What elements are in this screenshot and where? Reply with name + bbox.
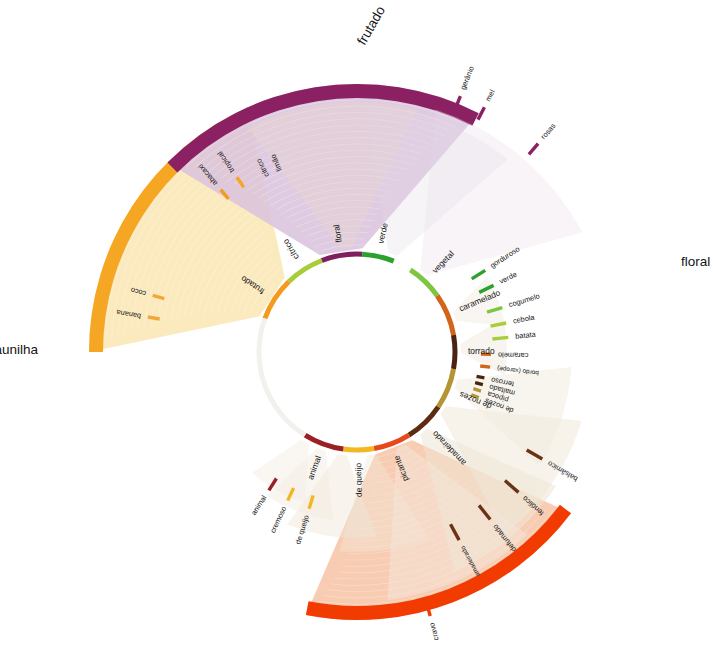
descriptor-tick-gorduroso[interactable] bbox=[472, 270, 485, 279]
ring-segment-caramelado[interactable] bbox=[435, 294, 456, 335]
ring-segment-torrado[interactable] bbox=[451, 335, 457, 370]
ring-segment-empty bbox=[257, 318, 307, 438]
descriptor-tick-rosas[interactable] bbox=[529, 144, 538, 155]
descriptor-label-cebola: cebola bbox=[512, 312, 536, 325]
inner-ring-layer bbox=[257, 251, 458, 452]
descriptor-tick-maltado[interactable] bbox=[475, 383, 483, 385]
petal-label-floral: floral bbox=[681, 254, 710, 269]
petal-label-frutado: frutado bbox=[354, 4, 388, 48]
descriptor-label-mel: mel bbox=[483, 88, 497, 103]
descriptor-label-verde: verde bbox=[498, 270, 519, 286]
descriptor-tick-pipoca[interactable] bbox=[473, 389, 481, 391]
petal-label-baunilha: baunilha bbox=[0, 342, 38, 357]
descriptor-label-animal: animal bbox=[249, 493, 268, 516]
ring-segment-de nozes[interactable] bbox=[436, 369, 456, 409]
ring-segment-animal[interactable] bbox=[304, 433, 344, 452]
descriptor-label-gerânio: gerânio bbox=[458, 65, 476, 91]
aroma-wheel-svg: frutadofloralbaunilhafrutadocítricoflora… bbox=[0, 0, 713, 655]
ring-segment-de queijo[interactable] bbox=[343, 446, 374, 452]
descriptor-label-caramelo: caramelo bbox=[498, 351, 529, 361]
descriptor-label-cremoso: cremoso bbox=[268, 505, 288, 534]
descriptor-tick-batata[interactable] bbox=[492, 337, 508, 339]
ring-segment-verde[interactable] bbox=[362, 252, 395, 264]
descriptor-tick-bordo (xarope)[interactable] bbox=[480, 366, 490, 367]
descriptor-label-cogumelo: cogumelo bbox=[508, 291, 541, 309]
descriptor-label-batata: batata bbox=[515, 330, 537, 341]
descriptor-label-cravo: cravo bbox=[427, 622, 441, 642]
descriptor-tick-terroso[interactable] bbox=[477, 376, 485, 378]
descriptor-tick-banana[interactable] bbox=[148, 317, 160, 319]
ring-label-torrado: torrado bbox=[468, 346, 495, 356]
ring-label-de queijo: de queijo bbox=[353, 463, 364, 498]
aroma-wheel-diagram: frutadofloralbaunilhafrutadocítricoflora… bbox=[0, 0, 713, 655]
descriptor-label-rosas: rosas bbox=[539, 121, 558, 141]
descriptor-tick-mel[interactable] bbox=[478, 107, 484, 119]
